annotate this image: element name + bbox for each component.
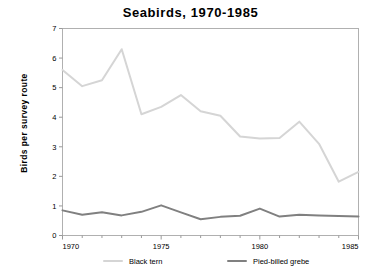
y-tick-label-7: 7 [52, 24, 56, 33]
y-axis-tick-labels: 01234567 [52, 24, 56, 240]
x-axis-tick-labels: 1970197519801985 [63, 242, 359, 251]
chart-container: Seabirds, 1970-1985 Birds per survey rou… [0, 0, 381, 279]
chart-legend: Black ternPied-billed grebe [104, 257, 309, 266]
y-tick-label-1: 1 [52, 202, 56, 211]
x-tick-label-1980: 1980 [251, 242, 268, 251]
plot-area: 01234567 1970197519801985 Black ternPied… [0, 0, 381, 279]
legend-label-pied-billed-grebe: Pied-billed grebe [253, 257, 309, 266]
x-tick-label-1985: 1985 [342, 242, 359, 251]
axis-frame [63, 29, 359, 236]
y-axis-ticks [59, 29, 63, 236]
data-series-group [63, 49, 359, 219]
x-tick-label-1975: 1975 [153, 242, 170, 251]
series-line-pied-billed-grebe [63, 205, 359, 219]
y-tick-label-6: 6 [52, 54, 56, 63]
y-tick-label-2: 2 [52, 172, 56, 181]
x-axis-ticks [63, 236, 359, 240]
legend-label-black-tern: Black tern [129, 257, 162, 266]
y-tick-label-4: 4 [52, 113, 56, 122]
x-tick-label-1970: 1970 [63, 242, 80, 251]
series-line-black-tern [63, 49, 359, 181]
y-tick-label-5: 5 [52, 83, 56, 92]
y-tick-label-3: 3 [52, 143, 56, 152]
y-tick-label-0: 0 [52, 231, 56, 240]
